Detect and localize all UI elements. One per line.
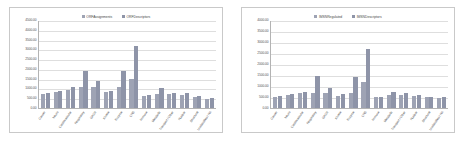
y-axis-tick-label: 3000.00 bbox=[25, 49, 36, 53]
x-axis-tick: GPCR bbox=[321, 110, 334, 144]
bar-group bbox=[180, 21, 189, 108]
x-axis-tick: CNS bbox=[359, 110, 372, 144]
two-panel-bar-chart-figure: ORFAssignments ORFDescriptors 0.00500.00… bbox=[0, 0, 465, 144]
y-axis-right: 0.00500.001000.001500.002000.002500.0030… bbox=[244, 21, 270, 109]
bar-group bbox=[41, 21, 50, 108]
bar-series2 bbox=[159, 88, 163, 108]
bar-group bbox=[374, 21, 383, 108]
bar-series1 bbox=[412, 96, 416, 108]
bar-series2 bbox=[197, 96, 201, 108]
x-axis-tick-label: Structural bbox=[422, 111, 432, 123]
y-axis-tick-label: 2000.00 bbox=[257, 63, 268, 67]
x-axis-right: CancerNeuroCardiovascularRespiratoryGPCR… bbox=[270, 110, 448, 144]
bar-series2 bbox=[210, 98, 214, 108]
legend-entry-orfdescriptors: ORFDescriptors bbox=[122, 15, 150, 19]
x-axis-tick-label: Structural bbox=[190, 111, 200, 123]
x-axis-tick: Enzyme bbox=[346, 110, 359, 144]
bar-series2 bbox=[303, 92, 307, 108]
y-axis-tick-label: 1000.00 bbox=[257, 85, 268, 89]
bar-group bbox=[142, 21, 151, 108]
bar-series1 bbox=[117, 87, 121, 108]
bar-series2 bbox=[147, 95, 151, 108]
y-axis-tick-label: 4000.00 bbox=[25, 29, 36, 33]
x-axis-tick: Cardiovascular bbox=[295, 110, 308, 144]
x-axis-tick-label: Immune bbox=[140, 111, 149, 122]
x-axis-tick-label: Immune bbox=[372, 111, 381, 122]
legend-entry-imsndescriptors: IMSNDescriptors bbox=[352, 15, 381, 19]
bar-series2 bbox=[278, 96, 282, 108]
bar-group bbox=[79, 21, 88, 108]
legend-left: ORFAssignments ORFDescriptors bbox=[10, 12, 222, 21]
x-axis-tick: Cancer bbox=[270, 110, 283, 144]
x-axis-tick-label: Cancer bbox=[39, 111, 47, 121]
bar-group bbox=[311, 21, 320, 108]
x-axis-tick: Immune bbox=[140, 110, 153, 144]
bar-series1 bbox=[399, 95, 403, 108]
bar-series2 bbox=[417, 95, 421, 108]
bar-series2 bbox=[83, 71, 87, 108]
x-axis-tick: CNS bbox=[127, 110, 140, 144]
x-axis-tick: Nuclear bbox=[178, 110, 191, 144]
bar-group bbox=[336, 21, 345, 108]
bar-group bbox=[155, 21, 164, 108]
chart-panel-right-frame: IMSNRegulated IMSNDescriptors 0.00500.00… bbox=[241, 7, 455, 133]
bar-series1 bbox=[273, 97, 277, 108]
x-axis-tick-label: Respiratory bbox=[306, 111, 318, 125]
x-axis-tick: Cancer bbox=[38, 110, 51, 144]
x-axis-tick-label: CNS bbox=[130, 111, 136, 118]
y-axis-tick-label: 2500.00 bbox=[257, 52, 268, 56]
bar-group bbox=[91, 21, 100, 108]
y-axis-tick-label: 1500.00 bbox=[257, 74, 268, 78]
bar-series1 bbox=[298, 93, 302, 108]
legend-swatch-icon-series1 bbox=[82, 15, 85, 18]
y-axis-tick-label: 500.00 bbox=[27, 97, 36, 101]
bar-group bbox=[193, 21, 202, 108]
y-axis-tick-label: 1500.00 bbox=[25, 78, 36, 82]
bar-series2 bbox=[172, 93, 176, 108]
bar-group bbox=[399, 21, 408, 108]
bar-group bbox=[437, 21, 446, 108]
x-axis-tick: Kinase bbox=[102, 110, 115, 144]
chart-panel-left-frame: ORFAssignments ORFDescriptors 0.00500.00… bbox=[9, 7, 223, 133]
bar-series1 bbox=[437, 98, 441, 108]
bar-series2 bbox=[109, 91, 113, 108]
x-axis-tick-label: Metabolic bbox=[384, 111, 394, 123]
bar-series1 bbox=[311, 93, 315, 108]
x-axis-tick-label: Cancer bbox=[271, 111, 279, 121]
chart-panel-left: ORFAssignments ORFDescriptors 0.00500.00… bbox=[0, 0, 232, 144]
bar-series1 bbox=[180, 95, 184, 108]
bar-series1 bbox=[167, 94, 171, 108]
bar-series2 bbox=[134, 46, 138, 108]
x-axis-tick-label: Neuro bbox=[52, 111, 59, 120]
y-axis-tick-label: 3500.00 bbox=[25, 39, 36, 43]
bar-series1 bbox=[425, 97, 429, 108]
plot-wrap-right: 0.00500.001000.001500.002000.002500.0030… bbox=[242, 21, 450, 132]
x-axis-tick-label: Kinase bbox=[103, 111, 111, 120]
bar-group bbox=[54, 21, 63, 108]
bar-series1 bbox=[336, 96, 340, 108]
legend-label-series2: ORFDescriptors bbox=[127, 15, 151, 19]
bar-group bbox=[412, 21, 421, 108]
bar-series2 bbox=[391, 92, 395, 108]
x-axis-tick-label: GPCR bbox=[90, 111, 98, 120]
bar-series1 bbox=[142, 96, 146, 108]
x-axis-tick: Unclassified / NA bbox=[203, 110, 216, 144]
bar-series2 bbox=[315, 76, 319, 108]
x-axis-tick-label: Enzyme bbox=[114, 111, 123, 122]
x-axis-tick: Respiratory bbox=[76, 110, 89, 144]
y-axis-left: 0.00500.001000.001500.002000.002500.0030… bbox=[12, 21, 38, 109]
bar-series2 bbox=[185, 93, 189, 108]
x-axis-tick: Nuclear bbox=[410, 110, 423, 144]
bar-group bbox=[205, 21, 214, 108]
x-axis-tick: Respiratory bbox=[308, 110, 321, 144]
x-axis-tick: Transport / Other bbox=[165, 110, 178, 144]
bar-series2 bbox=[442, 97, 446, 108]
legend-label-series1: ORFAssignments bbox=[86, 15, 112, 19]
bar-series2 bbox=[429, 97, 433, 108]
y-axis-tick-label: 4000.00 bbox=[257, 19, 268, 23]
bar-group bbox=[425, 21, 434, 108]
bar-group bbox=[167, 21, 176, 108]
bar-group bbox=[66, 21, 75, 108]
y-axis-tick-label: 1000.00 bbox=[25, 88, 36, 92]
bar-series2 bbox=[341, 94, 345, 108]
